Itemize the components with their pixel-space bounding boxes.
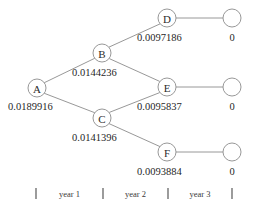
terminal-node-t1: [223, 9, 241, 27]
terminal-value-t1: 0: [229, 32, 234, 43]
node-value-c: 0.0141396: [72, 132, 117, 143]
node-value-b: 0.0144236: [72, 67, 117, 78]
node-label-f: F: [164, 147, 170, 159]
terminal-value-t2: 0: [229, 101, 234, 112]
terminal-node-t3: [223, 143, 241, 161]
timeline-label-year-1: year 1: [59, 189, 80, 199]
node-value-d: 0.0097186: [137, 32, 182, 43]
timeline-label-year-2: year 2: [125, 189, 146, 199]
node-label-c: C: [98, 113, 105, 125]
edge-c-f: [109, 124, 160, 147]
node-value-a: 0.0189916: [8, 101, 53, 112]
terminal-node-t2: [223, 78, 241, 96]
timeline-label-year-3: year 3: [189, 189, 210, 199]
node-value-e: 0.0095837: [137, 101, 182, 112]
edge-b-e: [109, 59, 159, 82]
node-label-e: E: [164, 82, 171, 94]
terminal-value-t3: 0: [229, 166, 234, 177]
diagram-canvas: ABCDEF 0.01899160.01442360.01413960.0097…: [0, 0, 255, 211]
binomial-tree-diagram: ABCDEF 0.01899160.01442360.01413960.0097…: [0, 0, 255, 211]
node-value-f: 0.0093884: [137, 166, 182, 177]
node-label-b: B: [98, 48, 105, 60]
node-label-a: A: [33, 83, 41, 95]
node-label-d: D: [163, 13, 171, 25]
timeline-axis: year 1year 2year 3: [36, 188, 232, 199]
